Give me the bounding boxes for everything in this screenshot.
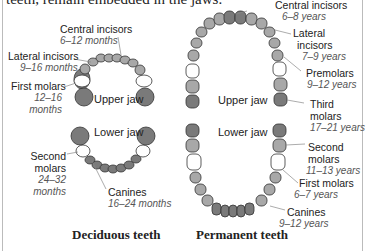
permanent-central-incisors-age: 6–8 years — [282, 11, 326, 23]
deciduous-teeth-title: Deciduous teeth — [72, 227, 160, 243]
deciduous-canines-label: Canines — [108, 186, 147, 198]
permanent-premolars-label: Premolars — [306, 67, 354, 79]
permanent-first-molars-label: First molars — [299, 177, 354, 189]
permanent-canines-label: Canines — [287, 206, 326, 218]
deciduous-second-molars-age-2: months — [20, 186, 66, 198]
deciduous-central-incisors-label: Central incisors — [60, 23, 132, 35]
deciduous-first-molars-age-2: months — [22, 104, 62, 116]
deciduous-lateral-incisors-age: 9–16 months — [20, 62, 78, 74]
deciduous-second-molars-age-1: 24–32 — [20, 174, 66, 186]
permanent-lateral-incisors-label-1: Lateral — [293, 27, 325, 39]
deciduous-lower-jaw-label: Lower jaw — [94, 126, 144, 138]
deciduous-second-molars-label-1: Second — [20, 150, 66, 162]
permanent-lateral-incisors-label-2: incisors — [297, 39, 333, 51]
permanent-third-molars-age: 17–21 years — [310, 122, 365, 134]
permanent-third-molars-label-2: molars — [310, 110, 342, 122]
permanent-central-incisors-label: Central incisors — [275, 0, 347, 11]
permanent-premolars-age: 9–12 years — [307, 79, 356, 91]
deciduous-central-incisors-age: 6–12 months — [60, 35, 118, 47]
permanent-first-molars-age: 6–7 years — [294, 189, 338, 201]
permanent-second-molars-age: 11–13 years — [306, 165, 360, 177]
deciduous-lateral-incisors-label: Lateral incisors — [8, 50, 79, 62]
permanent-lateral-incisors-age: 7–9 years — [302, 51, 346, 63]
deciduous-second-molars-label-2: molars — [20, 162, 66, 174]
permanent-second-molars-label-2: molars — [308, 153, 340, 165]
permanent-third-molars-label-1: Third — [310, 98, 334, 110]
deciduous-first-molars-age-1: 12–16 — [30, 92, 62, 104]
permanent-upper-jaw-label: Upper jaw — [218, 94, 268, 106]
permanent-teeth-title: Permanent teeth — [196, 227, 288, 243]
deciduous-first-molars-label: First molars — [11, 80, 66, 92]
deciduous-upper-jaw-label: Upper jaw — [94, 93, 144, 105]
permanent-lower-jaw-label: Lower jaw — [218, 126, 268, 138]
permanent-second-molars-label-1: Second — [308, 141, 344, 153]
deciduous-canines-age: 16–24 months — [108, 198, 171, 210]
